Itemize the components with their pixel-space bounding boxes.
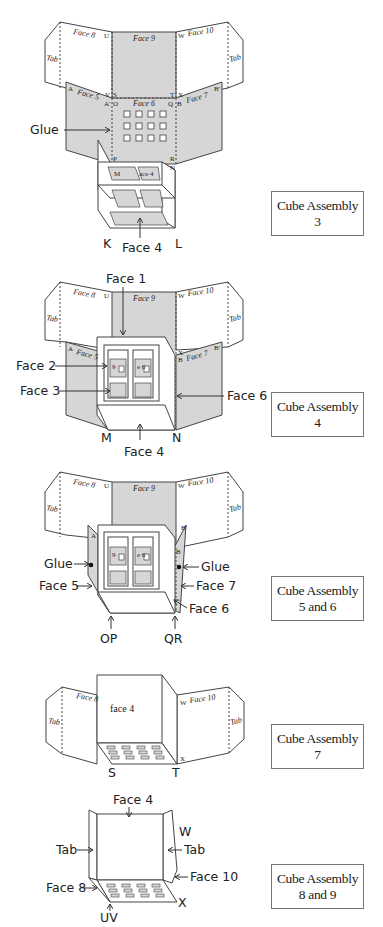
svg-text:W: W: [179, 824, 191, 839]
step-5-6-caption: Cube Assembly 5 and 6: [271, 576, 364, 621]
glue-dot-left: [89, 563, 94, 568]
svg-text:B': B': [214, 344, 220, 352]
glue-dot-right: [177, 565, 182, 570]
step-4-panel: Face 8 U Face 9 W Face 10 Tab Tab A Face…: [0, 255, 383, 460]
svg-text:A': A': [104, 100, 110, 108]
svg-text:UV: UV: [100, 910, 118, 925]
svg-text:Face 9: Face 9: [132, 34, 155, 43]
step-3-caption: Cube Assembly 3: [271, 191, 364, 236]
svg-text:V: V: [105, 91, 110, 99]
svg-text:Face 1: Face 1: [106, 271, 146, 286]
svg-text:U: U: [104, 482, 109, 490]
svg-text:B': B': [214, 85, 220, 93]
svg-text:B: B: [176, 548, 181, 556]
svg-text:X: X: [180, 755, 185, 763]
svg-text:P: P: [113, 155, 117, 163]
svg-text:W: W: [180, 699, 187, 707]
svg-text:R: R: [170, 155, 175, 163]
svg-text:B: B: [178, 356, 183, 364]
svg-text:Face 4: Face 4: [124, 444, 164, 459]
svg-text:W: W: [178, 292, 185, 300]
svg-text:Face 6: Face 6: [227, 388, 267, 403]
svg-text:O: O: [113, 100, 118, 108]
svg-text:face 4: face 4: [110, 703, 134, 714]
svg-text:W: W: [178, 482, 185, 490]
svg-text:ace 4: ace 4: [139, 170, 154, 178]
svg-text:T: T: [170, 91, 175, 99]
svg-text:S: S: [113, 91, 117, 99]
svg-text:e 6: e 6: [137, 363, 146, 371]
svg-text:Face 8: Face 8: [46, 880, 86, 895]
step-8-9-caption: Cube Assembly 8 and 9: [271, 864, 364, 909]
step-5-6-diagram: Face 8 U Face 9 W Face 10 Tab Tab A B B'…: [0, 460, 383, 660]
svg-text:Q: Q: [168, 100, 173, 108]
step-8-9-panel: Face 4 W Tab Tab Face 10 Face 8 X UV Cub…: [0, 780, 383, 927]
svg-text:B': B': [181, 524, 187, 532]
svg-text:A: A: [68, 345, 73, 353]
svg-text:Glue: Glue: [30, 122, 59, 137]
step-7-caption: Cube Assembly 7: [271, 724, 364, 769]
svg-text:K: K: [103, 236, 112, 251]
svg-text:Face 6: Face 6: [132, 99, 155, 108]
svg-text:e 6: e 6: [137, 551, 146, 559]
svg-text:X: X: [178, 91, 183, 99]
step-7-panel: Face 8 face 4 W Face 10 Tab Tab X S T Cu…: [0, 660, 383, 780]
svg-text:Face 10: Face 10: [190, 869, 238, 884]
svg-text:Face 3: Face 3: [20, 383, 60, 398]
svg-text:Tab: Tab: [55, 842, 77, 857]
svg-text:S: S: [108, 765, 116, 780]
svg-text:A: A: [91, 532, 96, 540]
svg-text:M: M: [114, 170, 121, 178]
svg-text:Glue: Glue: [201, 559, 230, 574]
svg-text:A: A: [68, 85, 73, 93]
svg-text:Face 5: Face 5: [39, 578, 79, 593]
svg-text:9: 9: [112, 363, 116, 371]
step-4-caption: Cube Assembly 4: [271, 392, 364, 437]
svg-text:N: N: [170, 164, 175, 172]
svg-text:T: T: [171, 765, 180, 780]
svg-text:B: B: [177, 100, 182, 108]
svg-text:M: M: [101, 430, 112, 445]
svg-text:9: 9: [112, 551, 116, 559]
svg-text:X: X: [178, 895, 187, 910]
svg-text:Tab: Tab: [183, 842, 205, 857]
step-3-panel: Face 8 U Face 9 W Face 10 Tab Tab A Face…: [0, 0, 383, 255]
svg-text:W: W: [178, 32, 185, 40]
svg-text:U: U: [104, 32, 109, 40]
svg-text:Face 4: Face 4: [122, 240, 162, 255]
step-5-6-panel: Face 8 U Face 9 W Face 10 Tab Tab A B B'…: [0, 460, 383, 660]
svg-text:Glue: Glue: [44, 556, 73, 571]
svg-text:L: L: [175, 236, 182, 251]
svg-text:Face 9: Face 9: [132, 294, 155, 303]
svg-text:Face 9: Face 9: [132, 484, 155, 493]
svg-text:Face 6: Face 6: [189, 601, 229, 616]
svg-text:U: U: [104, 292, 109, 300]
svg-text:Face 2: Face 2: [16, 358, 56, 373]
svg-text:OP: OP: [100, 631, 118, 646]
svg-text:N: N: [172, 430, 181, 445]
svg-text:QR: QR: [164, 631, 183, 646]
svg-text:Face 4: Face 4: [113, 792, 153, 807]
svg-text:Face 7: Face 7: [196, 578, 236, 593]
